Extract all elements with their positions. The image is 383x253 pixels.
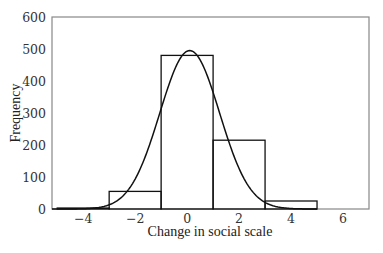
y-tick-label: 200 [22,138,46,153]
normal-curve [52,51,317,209]
histogram-bar [161,55,213,209]
y-tick-label: 0 [38,202,46,217]
x-tick-label: −4 [74,211,92,226]
y-tick-label: 300 [22,106,46,121]
x-tick-label: −2 [126,211,144,226]
x-tick-label: 6 [339,211,347,226]
y-tick-label: 100 [22,170,46,185]
y-axis-title: Frequency [8,83,23,142]
histogram-chart: 0100200300400500600 −4−20246 Change in s… [0,0,383,253]
x-axis-title: Change in social scale [148,224,273,239]
plot-frame [52,17,369,209]
y-tick-label: 500 [22,42,46,57]
y-tick-label: 400 [22,74,46,89]
y-axis-ticks: 0100200300400500600 [22,10,46,217]
y-tick-label: 600 [22,10,46,25]
histogram-bar [213,140,265,209]
histogram-bars [57,55,317,209]
x-tick-label: 4 [287,211,295,226]
